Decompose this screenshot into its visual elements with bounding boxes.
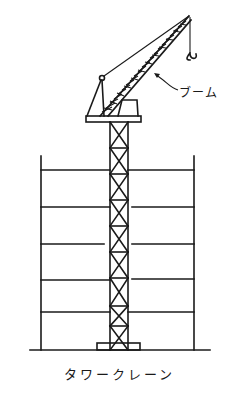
operator-cab xyxy=(118,100,138,116)
tower-crane-diagram xyxy=(0,0,238,412)
tower-mast xyxy=(110,122,128,350)
boom-leader-line xyxy=(156,75,178,90)
a-frame xyxy=(87,76,105,117)
diagram-caption: タワークレーン xyxy=(0,364,238,383)
crane-base xyxy=(97,343,140,350)
boom-pendant xyxy=(104,16,189,76)
boom-label: ブーム xyxy=(179,83,218,100)
slewing-platform xyxy=(86,116,141,122)
boom xyxy=(100,16,191,116)
